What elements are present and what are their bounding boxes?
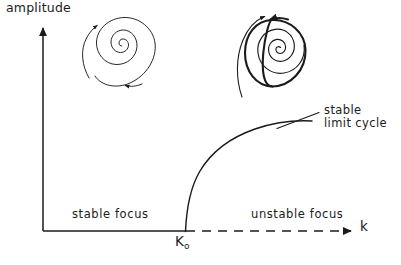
k0-base: K — [175, 233, 184, 249]
limit-cycle-leader-line — [277, 113, 319, 129]
stable-limit-cycle-label: stablelimit cycle — [324, 104, 387, 130]
bifurcation-point-label: Ko — [175, 234, 190, 251]
stable-focus-spiral-path — [95, 17, 155, 86]
stable-focus-inflow-arm — [83, 26, 97, 79]
x-axis-label: k — [360, 219, 368, 234]
inner-outward-spiral — [258, 29, 304, 73]
stable-focus-spiral — [83, 17, 156, 86]
stable-focus-region-label: stable focus — [72, 208, 149, 221]
y-axis-label: amplitude — [6, 1, 71, 15]
limit-cycle-direction-arrow — [271, 18, 289, 20]
outer-inflow-trajectory — [237, 17, 264, 98]
stable-limit-cycle-spiral — [237, 17, 305, 98]
limit-cycle-loop-left — [245, 20, 273, 87]
k0-subscript: o — [184, 241, 190, 251]
unstable-focus-region-label: unstable focus — [251, 208, 343, 221]
diagram-canvas — [0, 0, 401, 265]
limit-cycle-label-line2: limit cycle — [324, 116, 387, 130]
bifurcation-diagram: amplitude stable focus unstable focus st… — [0, 0, 401, 265]
